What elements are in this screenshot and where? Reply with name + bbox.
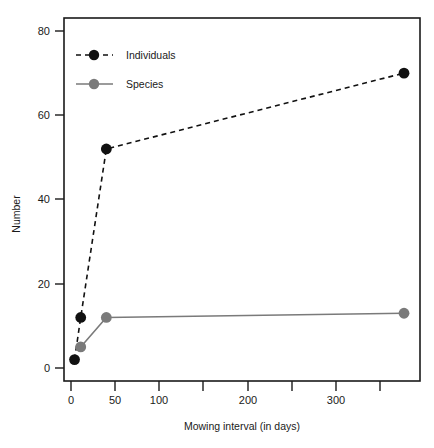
chart-figure: 80 60 40 20 0 Number 0 50 100 200 300 Mo… xyxy=(0,0,434,448)
x-axis-ticks xyxy=(71,381,380,391)
chart-legend: Individuals Species xyxy=(76,49,176,90)
y-tick-label-60: 60 xyxy=(38,109,50,121)
data-point[interactable] xyxy=(399,68,410,79)
legend-item-individuals[interactable]: Individuals xyxy=(76,49,176,61)
y-tick-label-80: 80 xyxy=(38,25,50,37)
y-tick-label-0: 0 xyxy=(44,362,50,374)
data-point[interactable] xyxy=(101,144,112,155)
legend-label-individuals: Individuals xyxy=(126,49,176,61)
x-tick-label-0: 0 xyxy=(68,394,74,406)
data-point[interactable] xyxy=(75,342,86,353)
legend-marker-individuals xyxy=(89,50,99,60)
x-axis-title: Mowing interval (in days) xyxy=(184,420,300,432)
y-axis-title: Number xyxy=(10,195,22,233)
data-point[interactable] xyxy=(69,354,80,365)
plot-frame xyxy=(64,18,420,381)
series-individuals xyxy=(69,68,409,365)
legend-item-species[interactable]: Species xyxy=(76,78,163,90)
data-point[interactable] xyxy=(75,312,86,323)
legend-marker-species xyxy=(89,79,99,89)
series-species xyxy=(75,308,409,353)
data-series-layer xyxy=(69,68,409,365)
y-tick-label-20: 20 xyxy=(38,278,50,290)
x-tick-label-300: 300 xyxy=(327,394,345,406)
chart-canvas: 80 60 40 20 0 Number 0 50 100 200 300 Mo… xyxy=(0,0,434,448)
y-tick-label-40: 40 xyxy=(38,193,50,205)
x-tick-label-200: 200 xyxy=(239,394,257,406)
data-point[interactable] xyxy=(101,312,112,323)
series-line-species xyxy=(81,313,404,347)
x-tick-label-100: 100 xyxy=(150,394,168,406)
data-point[interactable] xyxy=(399,308,410,319)
y-axis-ticks xyxy=(55,31,64,368)
legend-label-species: Species xyxy=(126,78,163,90)
x-tick-label-50: 50 xyxy=(109,394,121,406)
